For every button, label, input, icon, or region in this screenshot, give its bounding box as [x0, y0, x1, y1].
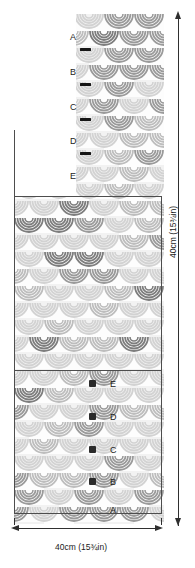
section-marker-top-b: [80, 83, 91, 86]
section-label-top-a: A: [70, 33, 76, 42]
arrow-up-icon: [175, 11, 181, 19]
arrow-left-icon: [11, 525, 19, 531]
empty-corner-mask: [0, 0, 76, 196]
section-marker-bottom-e: [89, 380, 96, 387]
diagram-canvas: A B C D E E D C B A 40cm (15¾in) 40cm (1…: [0, 0, 195, 568]
arrow-right-icon: [155, 525, 163, 531]
section-marker-top-a: [80, 48, 91, 51]
section-marker-top-c: [80, 118, 91, 121]
section-label-top-d: D: [70, 137, 77, 146]
section-label-top-c: C: [70, 103, 77, 112]
vertical-dimension-label: 40cm (15¾in): [168, 206, 178, 258]
section-marker-bottom-b: [89, 478, 96, 485]
section-marker-top-d: [80, 152, 91, 155]
section-label-bottom-c: C: [110, 446, 117, 455]
section-label-top-e: E: [70, 172, 76, 181]
section-marker-bottom-c: [89, 446, 96, 453]
section-label-bottom-d: D: [110, 413, 117, 422]
section-label-bottom-b: B: [110, 478, 116, 487]
dimension-tick-left: [14, 518, 15, 525]
vertical-dimension-line: [178, 18, 179, 526]
horizontal-dimension-label: 40cm (15¾in): [0, 542, 162, 552]
section-marker-bottom-d: [89, 413, 96, 420]
horizontal-dimension-line: [18, 528, 160, 529]
dimension-tick-right: [161, 518, 162, 525]
arrow-down-icon: [175, 518, 181, 526]
section-label-top-b: B: [70, 68, 76, 77]
section-label-bottom-a: A: [110, 506, 116, 515]
section-label-bottom-e: E: [110, 380, 116, 389]
